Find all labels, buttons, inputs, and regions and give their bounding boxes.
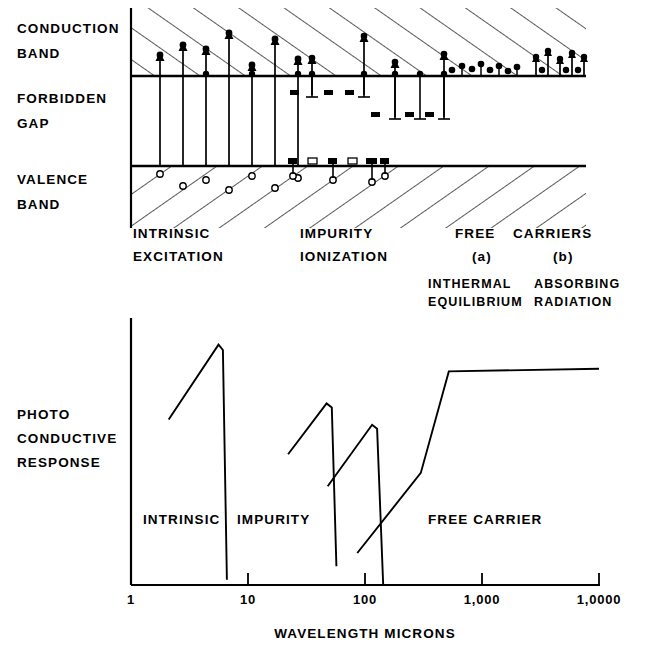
label-radiation: RADIATION bbox=[534, 295, 612, 309]
valence-band-region bbox=[131, 166, 586, 228]
x-tick-label-1: 1 bbox=[127, 592, 135, 607]
label-inthermal: INTHERMAL bbox=[428, 277, 512, 291]
label-valence-band-line1: VALENCE bbox=[17, 172, 88, 187]
photoconductivity-figure: CONDUCTION BAND FORBIDDEN GAP VALENCE BA… bbox=[0, 0, 666, 649]
label-forbidden-gap-line2: GAP bbox=[17, 116, 50, 131]
figure-svg: CONDUCTION BAND FORBIDDEN GAP VALENCE BA… bbox=[0, 0, 666, 649]
label-free-carriers-line2: CARRIERS bbox=[513, 226, 592, 241]
label-free-carrier-a-tag: (a) bbox=[472, 249, 492, 264]
curve-intrinsic bbox=[169, 345, 227, 580]
region-label-impurity: IMPURITY bbox=[237, 512, 310, 527]
label-valence-band-line2: BAND bbox=[17, 197, 60, 212]
label-conduction-band-line2: BAND bbox=[17, 46, 60, 61]
label-equilibrium: EQUILIBRIUM bbox=[428, 295, 523, 309]
response-curves bbox=[169, 345, 599, 585]
label-free-carrier-b-tag: (b) bbox=[553, 249, 574, 264]
x-tick-label-1000: 1,000 bbox=[464, 592, 501, 607]
label-impurity-ionization-line2: IONIZATION bbox=[300, 249, 388, 264]
ylabel-line1: PHOTO bbox=[17, 407, 70, 422]
label-intrinsic-excitation-line1: INTRINSIC bbox=[133, 226, 210, 241]
photoconductive-response-plot: 1 10 100 1,000 1,0000 PHOTO CONDUCTIVE R… bbox=[17, 318, 621, 641]
label-impurity-ionization-line1: IMPURITY bbox=[300, 226, 373, 241]
label-intrinsic-excitation-line2: EXCITATION bbox=[133, 249, 224, 264]
x-tick-label-10: 10 bbox=[240, 592, 256, 607]
acceptor-levels bbox=[288, 158, 389, 164]
x-tick-label-10000: 1,0000 bbox=[577, 592, 622, 607]
label-forbidden-gap-line1: FORBIDDEN bbox=[17, 91, 107, 106]
ylabel-line2: CONDUCTIVE bbox=[17, 431, 117, 446]
x-tick-label-100: 100 bbox=[353, 592, 377, 607]
band-diagram: CONDUCTION BAND FORBIDDEN GAP VALENCE BA… bbox=[17, 8, 620, 309]
x-axis-ticks bbox=[131, 573, 599, 585]
label-absorbing: ABSORBING bbox=[534, 277, 620, 291]
ylabel-line3: RESPONSE bbox=[17, 455, 101, 470]
region-label-intrinsic: INTRINSIC bbox=[143, 512, 220, 527]
x-axis-title: WAVELENGTH MICRONS bbox=[274, 626, 456, 641]
label-free-carriers-line1: FREE bbox=[455, 226, 495, 241]
label-conduction-band-line1: CONDUCTION bbox=[17, 21, 120, 36]
region-label-free-carrier: FREE CARRIER bbox=[428, 512, 542, 527]
